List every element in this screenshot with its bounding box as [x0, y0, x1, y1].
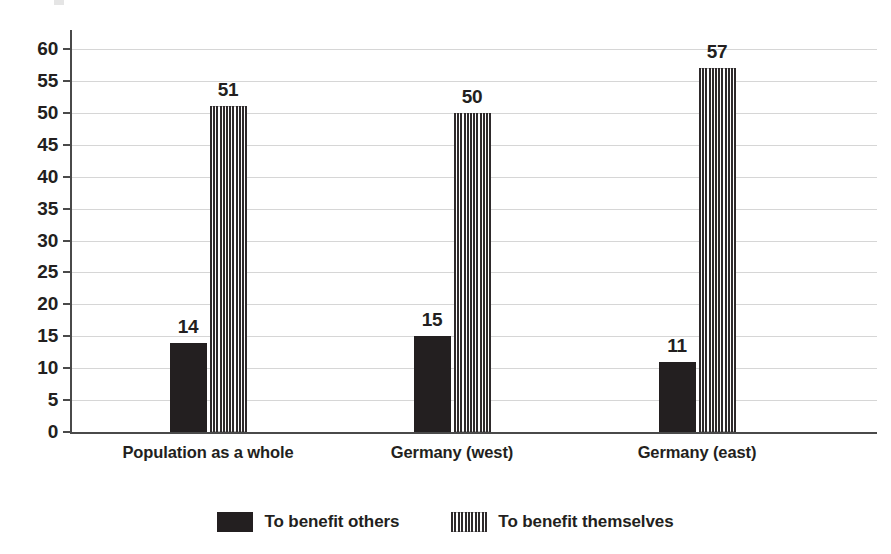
y-tick-label: 5: [12, 390, 58, 409]
axis-baseline: [71, 432, 877, 434]
gridline-60: [71, 49, 877, 50]
y-tick-mark-5: [63, 399, 72, 401]
solid-swatch-icon: [217, 512, 253, 532]
bar-to-benefit-others[interactable]: [414, 336, 451, 432]
y-tick-label: 20: [12, 294, 58, 313]
x-axis-category-label: Germany (east): [557, 443, 837, 461]
y-tick-mark-25: [63, 271, 72, 273]
legend-item-to-benefit-themselves[interactable]: To benefit themselves: [451, 512, 673, 532]
legend-item-to-benefit-others[interactable]: To benefit others: [217, 512, 399, 532]
y-tick-label: 10: [12, 358, 58, 377]
y-tick-mark-10: [63, 367, 72, 369]
x-axis-category-label: Population as a whole: [68, 443, 348, 461]
bar-value-label: 57: [687, 42, 748, 61]
legend-label: To benefit themselves: [498, 512, 673, 532]
y-tick-mark-45: [63, 144, 72, 146]
bar-to-benefit-themselves[interactable]: [454, 113, 491, 432]
striped-swatch-icon: [451, 512, 487, 532]
y-tick-mark-55: [63, 80, 72, 82]
bar-to-benefit-others[interactable]: [659, 362, 696, 432]
y-tick-label: 40: [12, 167, 58, 186]
bar-to-benefit-themselves[interactable]: [699, 68, 736, 432]
y-tick-mark-0: [63, 431, 72, 433]
bar-value-label: 50: [442, 87, 503, 106]
y-tick-label: 0: [12, 422, 58, 441]
y-tick-label: 55: [12, 71, 58, 90]
y-tick-label: 50: [12, 103, 58, 122]
y-tick-label: 25: [12, 262, 58, 281]
y-tick-mark-20: [63, 303, 72, 305]
y-tick-mark-15: [63, 335, 72, 337]
y-tick-label: 30: [12, 231, 58, 250]
y-tick-mark-35: [63, 208, 72, 210]
chart-legend: To benefit others To benefit themselves: [0, 512, 891, 532]
bar-value-label: 15: [402, 310, 463, 329]
bar-chart-figure: 605550454035302520151050 Population as a…: [0, 0, 891, 554]
y-tick-label: 45: [12, 135, 58, 154]
y-tick-mark-60: [63, 48, 72, 50]
y-tick-label: 35: [12, 199, 58, 218]
bar-to-benefit-themselves[interactable]: [210, 106, 247, 432]
gridline-55: [71, 81, 877, 82]
legend-label: To benefit others: [264, 512, 399, 532]
y-tick-label: 60: [12, 39, 58, 58]
bar-value-label: 11: [647, 336, 708, 355]
y-tick-mark-50: [63, 112, 72, 114]
bar-value-label: 51: [198, 80, 259, 99]
y-tick-label: 15: [12, 326, 58, 345]
y-tick-mark-30: [63, 240, 72, 242]
x-axis-category-label: Germany (west): [312, 443, 592, 461]
bar-to-benefit-others[interactable]: [170, 343, 207, 432]
y-tick-mark-40: [63, 176, 72, 178]
y-axis-tick-group: 605550454035302520151050: [0, 0, 58, 554]
bar-value-label: 14: [158, 317, 219, 336]
